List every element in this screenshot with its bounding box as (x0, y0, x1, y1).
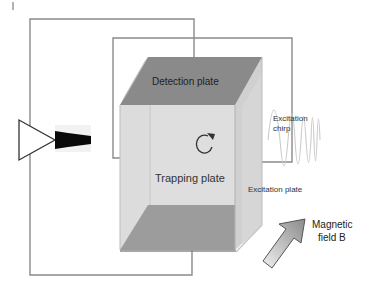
detected-signal-icon (55, 125, 91, 152)
amplifier-icon (19, 120, 55, 160)
magnetic-field-label-1: Magnetic (312, 219, 353, 230)
trapping-plate-label: Trapping plate (155, 172, 225, 184)
icr-cell-diagram (0, 0, 374, 286)
excitation-chirp-label-2: chirp (273, 124, 290, 133)
excitation-chirp-label-1: Excitation (273, 114, 308, 123)
magnetic-field-arrow-icon (263, 219, 305, 268)
detection-plate-label: Detection plate (152, 76, 219, 87)
magnetic-field-label-2: field B (318, 232, 346, 243)
excitation-plate-label: Excitation plate (248, 185, 302, 194)
